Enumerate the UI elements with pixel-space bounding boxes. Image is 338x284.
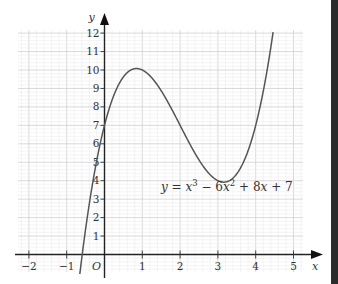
x-tick-label: 1 bbox=[139, 260, 146, 272]
right-edge-bar bbox=[331, 0, 338, 284]
x-tick-label: 4 bbox=[252, 260, 259, 272]
y-tick-label: 7 bbox=[93, 119, 100, 131]
x-tick-label: −2 bbox=[21, 260, 36, 272]
equation-label: y = x3 − 6x2 + 8x + 7 bbox=[160, 178, 293, 194]
grid bbox=[18, 30, 303, 272]
y-tick-label: 12 bbox=[86, 27, 99, 39]
y-axis-arrow-icon bbox=[100, 13, 109, 25]
x-axis-arrow-icon bbox=[311, 250, 323, 259]
y-tick-label: 10 bbox=[86, 64, 99, 76]
y-tick-label: 2 bbox=[93, 211, 100, 223]
x-axis-label: x bbox=[312, 260, 319, 273]
y-tick-label: 1 bbox=[93, 230, 100, 242]
origin-label: O bbox=[92, 260, 101, 273]
y-tick-label: 11 bbox=[86, 45, 99, 57]
y-tick-label: 9 bbox=[93, 82, 100, 94]
y-tick-label: 8 bbox=[93, 100, 100, 112]
x-tick-label: −1 bbox=[59, 260, 74, 272]
y-axis-label: y bbox=[87, 11, 95, 24]
x-tick-label: 2 bbox=[177, 260, 184, 272]
cubic-graph: −2−112345123456789101112yxOy = x3 − 6x2 … bbox=[0, 0, 338, 284]
x-tick-label: 3 bbox=[215, 260, 222, 272]
y-tick-label: 3 bbox=[93, 193, 100, 205]
x-tick-label: 5 bbox=[290, 260, 297, 272]
